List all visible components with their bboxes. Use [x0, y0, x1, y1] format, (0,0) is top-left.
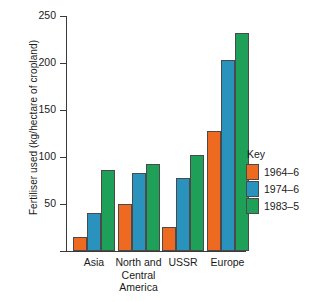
x-axis-line [66, 251, 246, 252]
y-tick-50 [60, 204, 67, 205]
y-tick-150 [60, 110, 67, 111]
bar [176, 178, 190, 251]
legend-swatch-icon [246, 164, 259, 180]
bar [146, 164, 160, 251]
y-tick-label-100: 100 [16, 150, 56, 162]
bar [207, 131, 221, 251]
y-tick-100 [60, 157, 67, 158]
bar [73, 237, 87, 251]
legend-item-19746: 1974–6 [246, 180, 308, 197]
bar [190, 155, 204, 251]
legend-item-19646: 1964–6 [246, 163, 308, 180]
bar [132, 173, 146, 251]
legend-item-label: 1964–6 [264, 166, 299, 178]
legend-item-label: 1983–5 [264, 200, 299, 212]
bar [101, 170, 115, 251]
legend: Key 1964–61974–61983–5 [246, 148, 308, 214]
legend-items: 1964–61974–61983–5 [246, 163, 308, 214]
y-tick-0 [60, 251, 67, 252]
y-tick-label-50: 50 [16, 197, 56, 209]
bar [118, 204, 132, 251]
bar-group-ussr [162, 16, 204, 251]
y-tick-label-250: 250 [16, 9, 56, 21]
fertiliser-bar-chart: Fertiliser used (kg/hectare of cropland)… [0, 0, 309, 302]
legend-swatch-icon [246, 198, 259, 214]
bar [162, 227, 176, 251]
bar-group-asia [73, 16, 115, 251]
y-tick-250 [60, 16, 67, 17]
legend-swatch-icon [246, 181, 259, 197]
bar-group-europe [207, 16, 249, 251]
x-label-line: Central [97, 269, 181, 282]
legend-title: Key [246, 148, 308, 160]
x-label-line: Europe [186, 256, 270, 269]
x-label-europe: Europe [186, 256, 270, 269]
bar [235, 33, 249, 251]
y-tick-label-200: 200 [16, 56, 56, 68]
legend-item-label: 1974–6 [264, 183, 299, 195]
bar [87, 213, 101, 251]
legend-item-19835: 1983–5 [246, 197, 308, 214]
x-label-line: America [97, 281, 181, 294]
plot-area [67, 16, 246, 251]
bar-group-north-and-central-america [118, 16, 160, 251]
y-tick-200 [60, 63, 67, 64]
bar [221, 60, 235, 251]
y-tick-label-150: 150 [16, 103, 56, 115]
